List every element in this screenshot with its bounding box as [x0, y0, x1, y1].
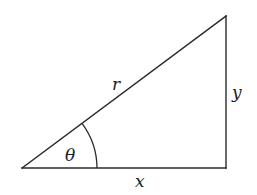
angle-label: θ: [65, 145, 75, 165]
right-triangle-diagram: r y x θ: [0, 0, 257, 195]
opposite-label: y: [231, 82, 242, 102]
hypotenuse-label: r: [112, 74, 121, 94]
adjacent-label: x: [135, 171, 145, 191]
angle-arc: [82, 123, 97, 168]
hypotenuse-edge: [22, 16, 226, 168]
